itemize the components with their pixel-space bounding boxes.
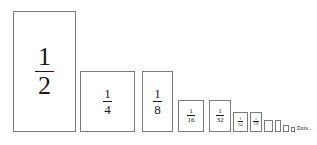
series-term-box: 12 [13, 11, 76, 132]
series-term-box: 164 [233, 112, 248, 132]
series-term-box [283, 125, 289, 132]
series-term-box: 116 [178, 100, 204, 132]
series-term-box [264, 120, 273, 132]
fraction-numerator: 1 [188, 108, 193, 115]
series-ellipsis-label: Dots... [297, 126, 313, 131]
fraction-label: 132 [216, 108, 225, 124]
geometric-series-figure: 1214181161321641128Dots... [0, 0, 317, 145]
fraction-numerator: 1 [217, 108, 222, 115]
fraction-denominator: 16 [187, 115, 196, 123]
fraction-denominator: 64 [238, 121, 243, 126]
series-term-box: 1128 [250, 112, 262, 132]
fraction-denominator: 32 [216, 115, 225, 123]
fraction-numerator: 1 [103, 87, 113, 101]
fraction-label: 18 [153, 87, 163, 115]
fraction-label: 116 [187, 108, 196, 124]
fraction-denominator: 2 [35, 71, 54, 100]
fraction-numerator: 1 [153, 87, 163, 101]
fraction-label: 1128 [253, 118, 258, 125]
fraction-label: 164 [238, 117, 243, 126]
series-term-box: 14 [80, 71, 135, 132]
series-term-box: 18 [142, 71, 173, 132]
fraction-denominator: 128 [253, 121, 258, 125]
fraction-numerator: 1 [35, 44, 54, 71]
fraction-label: 12 [35, 44, 54, 100]
fraction-denominator: 4 [103, 101, 113, 116]
series-term-box: 132 [209, 100, 231, 132]
fraction-label: 14 [103, 87, 113, 115]
series-term-box [291, 127, 295, 132]
series-term-box [275, 120, 281, 132]
fraction-denominator: 8 [153, 101, 163, 116]
